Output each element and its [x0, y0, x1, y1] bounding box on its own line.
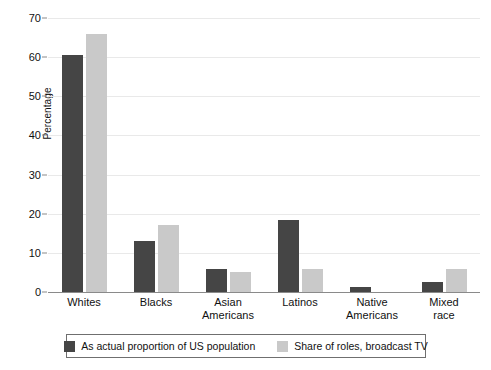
grouped-bar-chart: Percentage 010203040506070 WhitesBlacksA… [0, 0, 491, 370]
bar-group [422, 18, 467, 292]
legend-swatch-icon [64, 341, 75, 352]
bar-group [62, 18, 107, 292]
x-axis-category-label: Whites [48, 296, 120, 309]
x-axis-category-label: Latinos [264, 296, 336, 309]
bar [278, 220, 299, 292]
y-axis-tick-mark [42, 174, 47, 175]
bar [86, 34, 107, 292]
y-axis-tick-mark [42, 57, 47, 58]
y-axis-tick-label: 10 [29, 247, 41, 258]
bar [134, 241, 155, 292]
bar [206, 269, 227, 292]
x-axis-category-label: NativeAmericans [336, 296, 408, 322]
bar [230, 272, 251, 292]
legend-label: Share of roles, broadcast TV [294, 340, 427, 352]
legend-label: As actual proportion of US population [81, 340, 255, 352]
x-axis-label-line: Blacks [120, 296, 192, 309]
y-axis-tick-mark [42, 18, 47, 19]
y-axis-tick-label: 40 [29, 130, 41, 141]
legend-entry: As actual proportion of US population [64, 340, 255, 352]
chart-legend: As actual proportion of US populationSha… [66, 334, 426, 358]
x-axis-label-line: race [408, 309, 480, 322]
bar [302, 269, 323, 292]
bar-group [206, 18, 251, 292]
bar [350, 287, 371, 292]
x-axis-label-line: Whites [48, 296, 120, 309]
y-axis-tick-label: 70 [29, 13, 41, 24]
y-axis-tick-label: 50 [29, 91, 41, 102]
x-axis-label-line: Mixed [408, 296, 480, 309]
x-axis-label-line: Asian [192, 296, 264, 309]
x-axis-category-label: AsianAmericans [192, 296, 264, 322]
y-axis-tick-label: 0 [35, 287, 41, 298]
bar [158, 225, 179, 292]
bar-group [278, 18, 323, 292]
legend-swatch-icon [277, 341, 288, 352]
x-axis-category-label: Mixedrace [408, 296, 480, 322]
bar [446, 269, 467, 292]
x-axis-label-line: Americans [192, 309, 264, 322]
bar-group [134, 18, 179, 292]
y-axis-tick-mark [42, 292, 47, 293]
legend-entry: Share of roles, broadcast TV [277, 340, 427, 352]
bars-layer [48, 18, 480, 292]
bar [422, 282, 443, 292]
bar-group [350, 18, 395, 292]
x-axis-labels: WhitesBlacksAsianAmericansLatinosNativeA… [48, 296, 480, 330]
bar [62, 55, 83, 292]
y-axis-tick-label: 20 [29, 208, 41, 219]
x-axis-category-label: Blacks [120, 296, 192, 309]
y-axis-tick-mark [42, 252, 47, 253]
y-axis-tick-mark [42, 213, 47, 214]
axis-baseline [48, 292, 480, 293]
y-axis-tick-label: 60 [29, 52, 41, 63]
x-axis-label-line: Americans [336, 309, 408, 322]
plot-area: 010203040506070 [48, 18, 480, 292]
y-axis-tick-mark [42, 96, 47, 97]
x-axis-label-line: Latinos [264, 296, 336, 309]
y-axis-tick-mark [42, 135, 47, 136]
x-axis-label-line: Native [336, 296, 408, 309]
y-axis-tick-label: 30 [29, 169, 41, 180]
